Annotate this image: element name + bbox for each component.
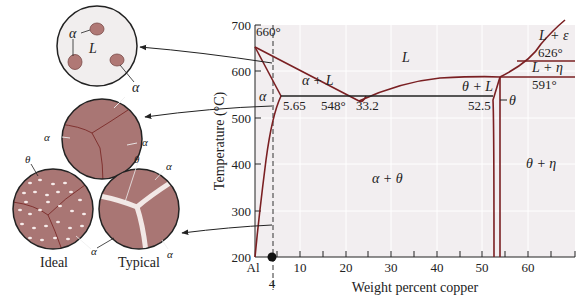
phase-liquid-eta: L + η <box>531 60 563 75</box>
x-tick-10: 10 <box>294 260 307 275</box>
melting-point-label: 660° <box>256 24 281 39</box>
ideal-caption: Ideal <box>40 255 68 270</box>
y-axis-label: Temperature (°C) <box>212 92 228 191</box>
x-tick-al: Al <box>247 260 260 275</box>
micro2-alpha-label-2: α <box>142 136 148 148</box>
typical-caption: Typical <box>118 255 160 270</box>
al-cu-phase-diagram: 700 600 500 400 300 200 Al 10 20 30 40 5… <box>0 0 587 302</box>
y-tick-400: 400 <box>232 157 252 172</box>
phase-alpha-liquid: α + L <box>302 73 334 88</box>
micro1-alpha-label: α <box>69 26 77 41</box>
phase-theta-eta: θ + η <box>526 156 556 171</box>
phase-theta: θ <box>509 93 516 108</box>
phase-liquid-epsilon: L + ε <box>538 28 569 43</box>
x-tick-20: 20 <box>340 260 353 275</box>
eutectic-comp-label: 33.2 <box>356 98 379 113</box>
phase-alpha-theta: α + θ <box>372 171 403 186</box>
phase-theta-liquid: θ + L <box>462 79 493 94</box>
peritectic-626-label: 626° <box>538 45 563 60</box>
micro3-alpha-label: α <box>91 245 97 257</box>
y-tick-700: 700 <box>232 18 252 33</box>
eutectic-temp-label: 548° <box>321 98 346 113</box>
composition-marker <box>268 253 277 262</box>
x-axis-label: Weight percent copper <box>352 280 479 295</box>
y-tick-600: 600 <box>232 64 252 79</box>
micro4-theta-label: θ <box>134 153 140 165</box>
x-tick-50: 50 <box>476 260 489 275</box>
alpha-solubility-label: 5.65 <box>283 98 306 113</box>
composition-4-label: 4 <box>269 276 276 291</box>
peritectic-591-label: 591° <box>532 77 557 92</box>
micro2-alpha-label-1: α <box>44 131 50 143</box>
y-tick-300: 300 <box>232 204 252 219</box>
micro4-alpha-label-2: α <box>167 248 173 260</box>
micro3-theta-label: θ <box>25 153 31 165</box>
x-tick-60: 60 <box>522 260 535 275</box>
phase-liquid: L <box>401 50 410 65</box>
micro1-alpha-label-2: α <box>132 80 140 95</box>
y-tick-500: 500 <box>232 111 252 126</box>
phase-alpha: α <box>259 89 267 104</box>
micro1-liquid-label: L <box>88 41 97 56</box>
micro4-alpha-label-1: α <box>166 160 172 172</box>
x-tick-40: 40 <box>431 260 444 275</box>
theta-comp-label: 52.5 <box>468 98 491 113</box>
x-tick-30: 30 <box>385 260 398 275</box>
micrograph-liquid: α L α <box>57 6 140 95</box>
